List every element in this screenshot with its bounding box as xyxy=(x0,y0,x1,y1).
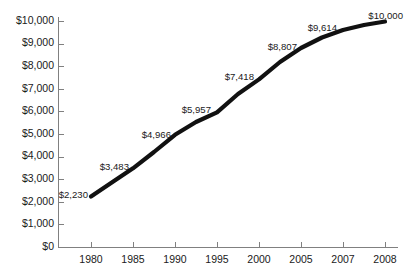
chart-canvas: $10,000 $9,000 $8,000 $7,000 $6,000 $5,0… xyxy=(0,0,405,277)
x-tick-label: 1985 xyxy=(121,253,145,265)
data-point-label: $4,966 xyxy=(142,129,171,140)
y-tick-label: $4,000 xyxy=(22,149,54,161)
y-tick-label: $6,000 xyxy=(22,104,54,116)
x-tick-label: 2000 xyxy=(247,253,271,265)
data-point-label: $2,230 xyxy=(59,189,88,200)
x-tick-label: 1990 xyxy=(163,253,187,265)
y-tick-label: $5,000 xyxy=(22,127,54,139)
x-axis-tick-labels: 1980 1985 1990 1995 2000 2005 2007 2008 xyxy=(79,253,397,265)
y-tick-label: $0 xyxy=(42,240,54,252)
data-point-label: $9,614 xyxy=(308,22,338,33)
x-tick-label: 2008 xyxy=(373,253,397,265)
x-tick-label: 2005 xyxy=(289,253,313,265)
y-tick-label: $3,000 xyxy=(22,172,54,184)
y-tick-label: $9,000 xyxy=(22,36,54,48)
y-tick-label: $7,000 xyxy=(22,82,54,94)
y-tick-label: $10,000 xyxy=(16,14,54,26)
line-chart-figure: $10,000 $9,000 $8,000 $7,000 $6,000 $5,0… xyxy=(0,0,405,277)
y-tick-label: $1,000 xyxy=(22,217,54,229)
y-axis-tick-labels: $10,000 $9,000 $8,000 $7,000 $6,000 $5,0… xyxy=(16,14,54,252)
y-tick-label: $2,000 xyxy=(22,195,54,207)
data-point-labels: $2,230 $3,483 $4,966 $5,957 $7,418 $8,80… xyxy=(59,10,403,200)
data-point-label: $3,483 xyxy=(100,161,129,172)
data-point-label: $8,807 xyxy=(268,41,297,52)
data-series-line xyxy=(91,22,385,197)
axes-group xyxy=(58,17,398,248)
data-point-label: $10,000 xyxy=(368,10,403,21)
data-point-label: $7,418 xyxy=(225,71,254,82)
x-tick-label: 1980 xyxy=(79,253,103,265)
y-tick-label: $8,000 xyxy=(22,59,54,71)
x-tick-label: 2007 xyxy=(331,253,355,265)
data-point-label: $5,957 xyxy=(182,104,211,115)
x-tick-label: 1995 xyxy=(205,253,229,265)
